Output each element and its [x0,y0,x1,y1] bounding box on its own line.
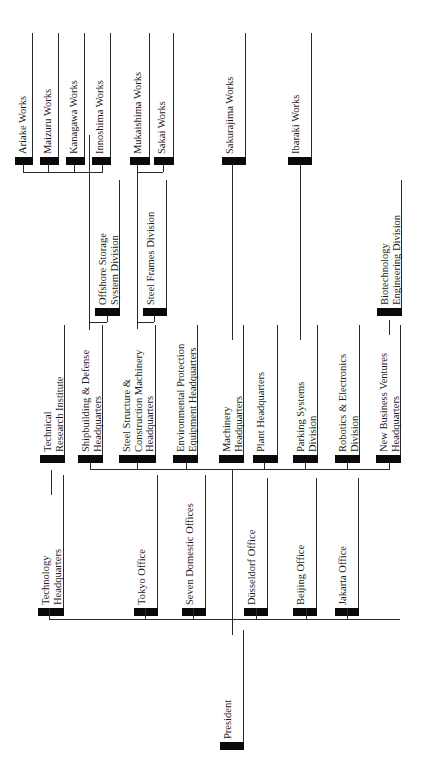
node-bar-steel_frames [143,308,167,316]
connector-line [347,463,348,470]
node-label-dusseldorf: Düsseldorf Office [246,530,258,605]
label-line: Division [349,354,361,452]
node-bar-env_protection [173,455,198,463]
connector-line [186,463,187,470]
label-line: Headquarters [390,353,402,452]
connector-line [163,164,164,172]
connector-line [137,322,154,323]
label-line: Ariake Works [17,96,29,154]
shipbuilding-branch [89,135,90,330]
connector-line [389,463,390,470]
label-line: President [222,700,234,739]
node-bar-steel_structure [119,455,156,463]
label-line: Headquarters [92,350,104,452]
president-trunk [232,470,233,635]
label-line: Beijing Office [295,545,307,605]
connector-line [264,463,265,470]
node-bar-seven_domestic [182,608,206,616]
label-line: System Division [109,233,121,305]
node-bar-robotics [335,455,360,463]
label-line: Steel Frames Division [145,212,157,305]
node-bar-ibaraki [288,157,312,165]
node-bar-ariake [15,157,33,165]
node-bar-new_business [376,455,401,463]
connector-line [89,322,107,323]
node-rule-maizuru [58,33,59,157]
node-label-ariake: Ariake Works [17,96,29,154]
node-bar-beijing [293,608,317,616]
node-rule-mukaishima [149,33,150,157]
node-label-parking: Parking SystemsDivision [295,382,318,452]
node-bar-machinery [219,455,244,463]
connector-line [102,164,103,172]
label-line: Jakarta Office [337,546,349,605]
node-bar-technology_hq [38,608,64,616]
node-rule-kanagawa [84,33,85,157]
label-line: Headquarters [233,396,245,452]
label-line: Kanagawa Works [68,80,80,154]
steel-branch [137,164,138,329]
node-bar-kanagawa [66,157,85,165]
node-bar-president [220,742,244,750]
label-line: Biotechnology [379,215,391,305]
node-rule-president [243,630,244,742]
node-label-new_business: New Business VenturesHeadquarters [378,353,401,452]
label-line: Seven Domestic Offices [184,503,196,605]
label-line: New Business Ventures [378,353,390,452]
label-line: Plant Headquarters [255,372,267,452]
node-bar-parking [293,455,318,463]
label-line: Sakurajima Works [224,77,236,154]
node-label-plant: Plant Headquarters [255,372,267,452]
label-line: Headquarters [52,549,64,605]
label-line: Technology [40,549,52,605]
node-label-steel_frames: Steel Frames Division [145,212,157,305]
label-line: Equipment Headquarters [187,344,199,452]
node-rule-steel_frames [166,180,167,308]
label-line: Parking Systems [295,382,307,452]
label-line: Mukaishima Works [132,72,144,154]
node-bar-sakai [154,157,174,165]
node-rule-tokyo [157,475,158,608]
node-bar-tokyo [134,608,158,616]
connector-line [305,463,306,470]
node-label-steel_structure: Steel Structure &Construction MachineryH… [121,350,156,452]
label-line: Environmental Protection [175,344,187,452]
node-label-robotics: Robotics & ElectronicsDivision [337,354,360,452]
node-label-ibaraki: Ibaraki Works [290,95,302,154]
label-line: Maizuru Works [42,89,54,154]
node-rule-ariake [32,33,33,157]
connector-line [48,164,49,172]
label-line: Düsseldorf Office [246,530,258,605]
label-line: Innoshima Works [94,80,106,154]
node-rule-jakarta [358,478,359,608]
connector-line [389,320,390,335]
node-label-seven_domestic: Seven Domestic Offices [184,503,196,605]
node-rule-innoshima [110,33,111,157]
node-rule-ibaraki [311,33,312,157]
office-bus-line [49,619,348,620]
division-bus [90,469,390,470]
connector-line [137,463,138,470]
node-label-sakai: Sakai Works [156,101,168,154]
machinery-branch [232,162,233,340]
node-bar-plant [253,455,278,463]
node-label-maizuru: Maizuru Works [42,89,54,154]
node-label-beijing: Beijing Office [295,545,307,605]
node-label-machinery: MachineryHeadquarters [221,396,244,452]
label-line: Ibaraki Works [290,95,302,154]
node-label-offshore: Offshore StorageSystem Division [97,233,120,305]
node-bar-shipbuilding [78,455,103,463]
node-rule-technology_hq [63,475,64,608]
node-bar-mukaishima [130,157,150,165]
node-bar-innoshima [92,157,111,165]
label-line: Division [307,382,319,452]
works-bus-1 [23,172,103,173]
label-line: Headquarters [144,350,156,452]
node-label-biotech: BiotechnologyEngineering Division [379,215,402,305]
node-label-jakarta: Jakarta Office [337,546,349,605]
node-bar-biotech [377,308,402,316]
node-label-env_protection: Environmental ProtectionEquipment Headqu… [175,344,198,452]
label-line: Shipbuilding & Defense [80,350,92,452]
node-rule-sakurajima [245,33,246,157]
node-rule-seven_domestic [205,475,206,608]
